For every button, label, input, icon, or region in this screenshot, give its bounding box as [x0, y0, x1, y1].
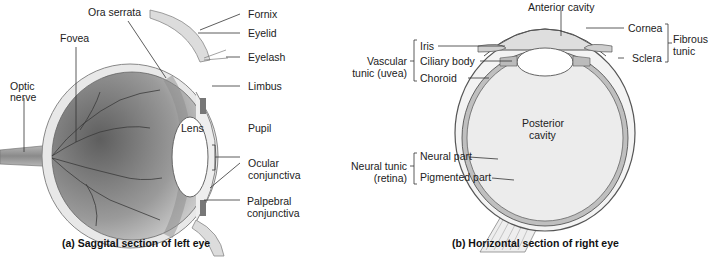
label-fibrous-tunic-line1: Fibrous [673, 33, 708, 45]
caption-panel-a: (a) Saggital section of left eye [62, 237, 210, 249]
label-iris: Iris [420, 40, 434, 52]
label-fovea: Fovea [60, 32, 89, 44]
label-fornix: Fornix [248, 8, 277, 20]
label-fibrous-tunic-line2: tunic [673, 45, 695, 57]
label-posterior-cavity-line1: Posterior [522, 117, 564, 129]
label-neural-tunic-line1: Neural tunic [351, 160, 407, 172]
label-ocular-conjunctiva-line2: conjunctiva [248, 169, 301, 181]
label-posterior-cavity-line2: cavity [529, 129, 556, 141]
label-ciliary-body: Ciliary body [420, 55, 475, 67]
label-palpebral-conjunctiva-line1: Palpebral [247, 195, 291, 207]
label-ora-serrata: Ora serrata [88, 6, 141, 18]
label-eyelid: Eyelid [248, 27, 277, 39]
eye-anatomy-drawing [0, 0, 712, 259]
label-optic-nerve-line2: nerve [10, 91, 36, 103]
label-eyelash: Eyelash [248, 51, 285, 63]
label-neural-tunic-line2: (retina) [374, 172, 407, 184]
label-cornea: Cornea [628, 22, 662, 34]
label-choroid: Choroid [420, 72, 457, 84]
label-anterior-cavity: Anterior cavity [528, 1, 595, 13]
label-palpebral-conjunctiva-line2: conjunctiva [247, 207, 300, 219]
label-sclera: Sclera [632, 52, 662, 64]
label-ocular-conjunctiva-line1: Ocular [248, 157, 279, 169]
label-vascular-tunic-line1: Vascular [367, 55, 407, 67]
caption-panel-b: (b) Horizontal section of right eye [452, 237, 619, 249]
label-pigmented-part: Pigmented part [420, 171, 491, 183]
label-neural-part: Neural part [420, 150, 472, 162]
label-limbus: Limbus [248, 80, 282, 92]
label-vascular-tunic-line2: tunic (uvea) [352, 67, 407, 79]
label-pupil: Pupil [248, 122, 271, 134]
label-lens: Lens [181, 122, 204, 134]
